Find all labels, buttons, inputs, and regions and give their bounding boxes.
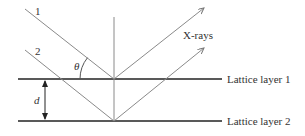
lattice-layer-1-label: Lattice layer 1 <box>227 73 291 85</box>
ray-label-2: 2 <box>35 45 41 57</box>
reflected-ray-1 <box>114 8 204 79</box>
incident-ray-1 <box>25 9 114 79</box>
theta-angle-arc <box>80 58 88 79</box>
ray-label-1: 1 <box>35 5 41 17</box>
spacing-label: d <box>34 94 40 106</box>
spacing-arrow-head-top <box>42 80 48 87</box>
bragg-diffraction-diagram: 1 2 θ X-rays d Lattice layer 1 Lattice l… <box>0 0 305 136</box>
incident-ray-2 <box>25 50 114 121</box>
lattice-layer-2-label: Lattice layer 2 <box>227 115 291 127</box>
reflected-ray-2 <box>114 48 204 121</box>
theta-label: θ <box>74 60 80 72</box>
xray-label: X-rays <box>183 29 213 41</box>
spacing-arrow-head-bottom <box>42 113 48 120</box>
